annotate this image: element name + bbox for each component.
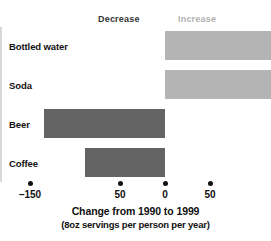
axis-tick-dot xyxy=(118,181,123,186)
axis-title-block: Change from 1990 to 1999 (8oz servings p… xyxy=(0,205,271,231)
bar-coffee[interactable] xyxy=(85,148,165,177)
bar-soda[interactable] xyxy=(165,70,271,99)
decrease-legend-label: Decrease xyxy=(98,14,140,24)
axis-tick-label: 50 xyxy=(114,189,125,200)
axis-tick-label: –150 xyxy=(19,189,41,200)
bar-bottled-water[interactable] xyxy=(165,31,271,60)
axis-tick-label: 50 xyxy=(204,189,215,200)
axis-tick-dot xyxy=(163,181,168,186)
bar-chart: Decrease Increase Bottled water Soda Bee… xyxy=(0,0,271,241)
axis-subtitle: (8oz servings per person per year) xyxy=(0,218,271,231)
category-label-soda: Soda xyxy=(9,79,32,90)
axis-tick-label: 0 xyxy=(162,189,168,200)
bar-row: Soda xyxy=(0,66,271,103)
axis-title: Change from 1990 to 1999 xyxy=(0,205,271,218)
bar-row: Coffee xyxy=(0,144,271,181)
bar-beer[interactable] xyxy=(44,109,166,138)
axis-tick-dot xyxy=(28,181,33,186)
category-label-beer: Beer xyxy=(9,118,30,129)
axis-tick-labels: –15050050150 xyxy=(0,189,271,203)
plot-area: Bottled water Soda Beer Coffee xyxy=(0,27,271,178)
category-label-coffee: Coffee xyxy=(9,157,38,168)
bar-row: Beer xyxy=(0,105,271,142)
increase-legend-label: Increase xyxy=(178,14,216,24)
bar-row: Bottled water xyxy=(0,27,271,64)
category-label-bottled-water: Bottled water xyxy=(9,40,68,51)
axis-tick-dot xyxy=(208,181,213,186)
